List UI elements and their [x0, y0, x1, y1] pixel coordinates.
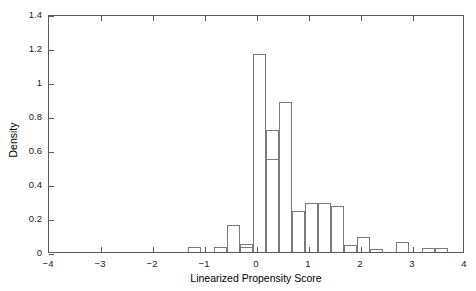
- y-axis-tick-label: 1: [37, 78, 42, 88]
- y-axis-tick-label: 0: [37, 248, 42, 258]
- y-axis-tick: [49, 84, 54, 85]
- histogram-bar: [253, 54, 266, 252]
- y-axis-label: Density: [7, 105, 19, 175]
- y-axis-tick: [49, 186, 54, 187]
- x-axis-tick-top: [153, 16, 154, 21]
- histogram-bar: [240, 244, 253, 253]
- y-axis-tick: [49, 220, 54, 221]
- histogram-bar: [227, 225, 240, 252]
- x-axis-tick-label: −2: [147, 259, 158, 269]
- x-axis-tick-top: [101, 16, 102, 21]
- plot-area: [48, 15, 464, 253]
- x-axis-tick-top: [309, 16, 310, 21]
- x-axis-tick-top: [257, 16, 258, 21]
- x-axis-tick: [361, 247, 362, 252]
- x-axis-tick: [413, 247, 414, 252]
- x-axis-tick: [257, 247, 258, 252]
- x-axis-tick-label: 2: [357, 259, 362, 269]
- histogram-bar: [331, 206, 344, 252]
- histogram-bar: [279, 102, 292, 252]
- x-axis-tick-top: [361, 16, 362, 21]
- histogram-bar: [422, 248, 435, 252]
- histogram-bar: [370, 249, 383, 252]
- histogram-figure: Linearized Propensity Score Density 00.2…: [0, 0, 476, 291]
- x-axis-label: Linearized Propensity Score: [48, 272, 464, 284]
- histogram-bar: [188, 247, 201, 252]
- histogram-bar: [344, 245, 357, 252]
- histogram-bar: [357, 237, 370, 252]
- y-axis-tick-label: 0.2: [29, 214, 42, 224]
- y-axis-tick-label: 1.2: [29, 44, 42, 54]
- y-axis-tick: [49, 16, 54, 17]
- histogram-bar: [435, 248, 448, 252]
- x-axis-tick-label: 0: [253, 259, 258, 269]
- x-axis-tick-label: 4: [461, 259, 466, 269]
- histogram-bar: [318, 203, 331, 252]
- x-axis-tick-top: [413, 16, 414, 21]
- y-axis-tick-label: 1.4: [29, 10, 42, 20]
- histogram-bar: [396, 242, 409, 252]
- y-axis-tick: [49, 50, 54, 51]
- y-axis-tick: [49, 118, 54, 119]
- x-axis-tick-label: 3: [409, 259, 414, 269]
- histogram-bar: [305, 203, 318, 252]
- x-axis-tick-label: −4: [43, 259, 54, 269]
- x-axis-tick-label: −3: [95, 259, 106, 269]
- y-axis-tick-label: 0.6: [29, 146, 42, 156]
- x-axis-tick-top: [205, 16, 206, 21]
- x-axis-tick: [309, 247, 310, 252]
- x-axis-tick: [101, 247, 102, 252]
- x-axis-tick-label: 1: [305, 259, 310, 269]
- y-axis-tick: [49, 254, 54, 255]
- y-axis-tick: [49, 152, 54, 153]
- histogram-bar: [266, 159, 279, 253]
- y-axis-tick-label: 0.4: [29, 180, 42, 190]
- histogram-bar: [214, 247, 227, 252]
- x-axis-tick-label: −1: [199, 259, 210, 269]
- histogram-bar: [292, 211, 305, 252]
- x-axis-tick: [205, 247, 206, 252]
- x-axis-tick: [153, 247, 154, 252]
- y-axis-tick-label: 0.8: [29, 112, 42, 122]
